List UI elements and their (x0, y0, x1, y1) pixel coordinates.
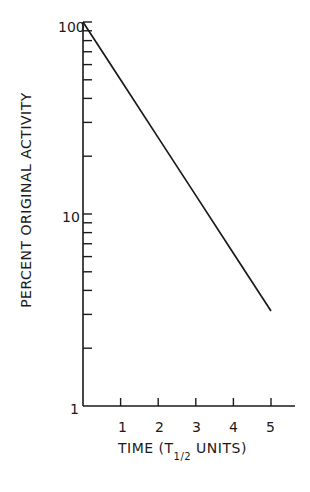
x-axis-title-tail: UNITS) (191, 440, 247, 456)
x-axis-title-subscript: 1/2 (174, 451, 192, 462)
x-axis-title: TIME (T1/2 UNITS) (117, 440, 247, 462)
x-tick-label-4: 4 (229, 419, 238, 435)
y-tick-label-100: 100 (58, 19, 85, 35)
x-axis-title-main: TIME (T (117, 440, 174, 456)
y-axis-title: PERCENT ORIGINAL ACTIVITY (18, 92, 34, 308)
y-tick-label-1: 1 (70, 401, 79, 417)
x-tick-label-2: 2 (155, 419, 164, 435)
x-tick-label-1: 1 (118, 419, 127, 435)
y-tick-label-10: 10 (62, 209, 80, 225)
x-tick-label-5: 5 (266, 419, 275, 435)
x-tick-label-3: 3 (192, 419, 201, 435)
x-axis-ticks (121, 398, 271, 406)
y-axis-ticks (83, 22, 92, 348)
decay-line (83, 22, 271, 311)
decay-chart: 100 10 1 1 2 3 4 5 TIME (T1/2 UNITS) PER… (0, 0, 310, 492)
